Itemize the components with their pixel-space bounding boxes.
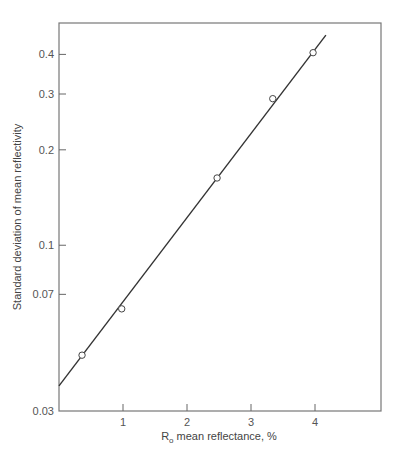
- y-axis-ticks: 0.030.070.10.20.30.4: [33, 48, 66, 417]
- regression-line: [59, 35, 326, 386]
- data-point-marker: [270, 95, 276, 101]
- x-tick-label: 3: [248, 416, 254, 428]
- chart: 0.030.070.10.20.30.4 1234 Standard devia…: [0, 0, 398, 462]
- y-tick-label: 0.03: [33, 405, 54, 417]
- y-axis-title: Standard deviation of mean reflectivity: [11, 123, 23, 310]
- y-tick-label: 0.4: [39, 48, 54, 60]
- x-tick-label: 1: [120, 416, 126, 428]
- data-point-marker: [214, 175, 220, 181]
- plot-frame: [59, 23, 381, 411]
- x-axis-ticks: 1234: [120, 404, 318, 428]
- x-axis-title: Ro mean reflectance, %: [161, 430, 277, 445]
- x-tick-label: 4: [312, 416, 318, 428]
- data-point-marker: [310, 49, 316, 55]
- data-point-marker: [79, 352, 85, 358]
- data-point-marker: [119, 306, 125, 312]
- y-tick-label: 0.07: [33, 288, 54, 300]
- fit-line: [59, 35, 326, 386]
- y-tick-label: 0.2: [39, 144, 54, 156]
- y-tick-label: 0.1: [39, 239, 54, 251]
- y-tick-label: 0.3: [39, 88, 54, 100]
- x-tick-label: 2: [184, 416, 190, 428]
